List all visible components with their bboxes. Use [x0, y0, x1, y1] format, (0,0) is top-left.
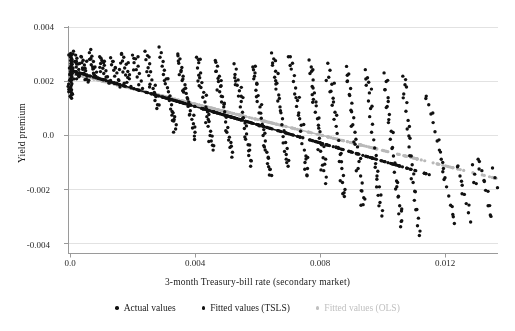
legend-label: Actual values: [124, 303, 176, 313]
y-tick-label-3: -0.002: [4, 185, 50, 195]
chart-figure: Yield premium 3-month Treasury-bill rate…: [0, 0, 515, 331]
legend-item-actual-values: Actual values: [115, 303, 175, 313]
legend-label: Fitted values (TSLS): [210, 303, 290, 313]
y-tick-label-1: 0.002: [8, 76, 54, 86]
x-tick-label-1: 0.004: [165, 258, 225, 268]
legend-item-fitted-ols: Fitted values (OLS): [316, 303, 400, 313]
y-tick-label-4: -0.004: [4, 240, 50, 250]
legend-item-fitted-tsls: Fitted values (TSLS): [202, 303, 290, 313]
chart-legend: Actual values Fitted values (TSLS) Fitte…: [0, 303, 515, 313]
x-tick-label-3: 0.012: [415, 258, 475, 268]
x-axis-title: 3-month Treasury-bill rate (secondary ma…: [0, 277, 515, 287]
legend-marker-icon: [202, 306, 206, 310]
y-tick-label-0: 0.004: [8, 22, 54, 32]
legend-label: Fitted values (OLS): [324, 303, 399, 313]
legend-marker-icon: [316, 306, 320, 310]
x-tick-label-0: 0.0: [40, 258, 100, 268]
y-tick-label-2: 0.0: [8, 130, 54, 140]
legend-marker-icon: [115, 306, 119, 310]
x-tick-label-2: 0.008: [290, 258, 350, 268]
